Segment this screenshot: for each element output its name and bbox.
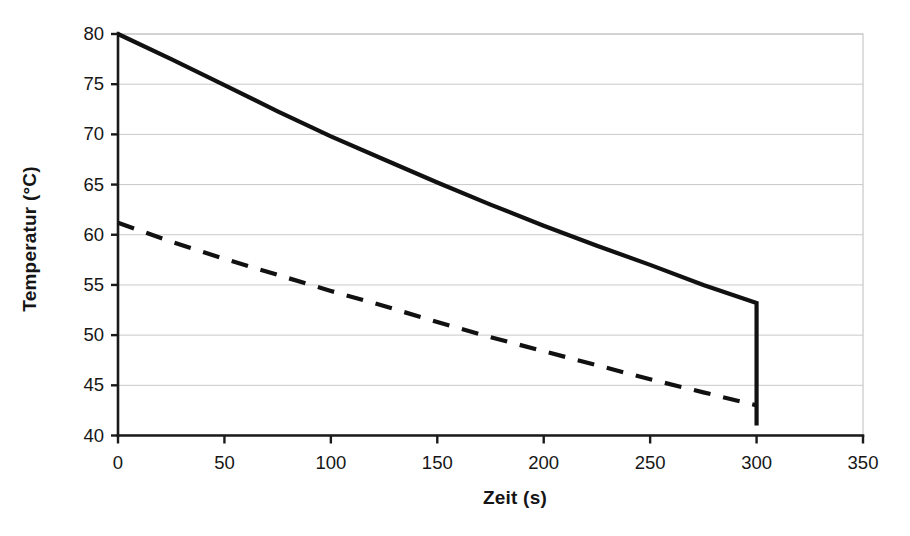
series-dashed-line	[118, 223, 757, 406]
x-tick-label: 150	[407, 452, 467, 474]
x-tick-label: 250	[620, 452, 680, 474]
temperature-time-chart: 807570656055504540 050100150200250300350…	[0, 0, 910, 536]
y-tick-label: 60	[58, 224, 104, 246]
tick-marks	[111, 34, 863, 444]
y-tick-label: 40	[58, 425, 104, 447]
y-tick-label: 80	[58, 23, 104, 45]
x-tick-label: 0	[88, 452, 148, 474]
series-solid-line	[118, 34, 757, 425]
y-tick-label: 75	[58, 73, 104, 95]
y-tick-label: 55	[58, 274, 104, 296]
y-axis-title: Temperatur (°C)	[19, 69, 41, 409]
x-tick-label: 350	[833, 452, 893, 474]
x-axis-title: Zeit (s)	[60, 487, 910, 509]
y-tick-label: 45	[58, 374, 104, 396]
y-tick-label: 70	[58, 123, 104, 145]
x-tick-label: 300	[727, 452, 787, 474]
y-tick-label: 50	[58, 324, 104, 346]
x-tick-label: 200	[514, 452, 574, 474]
x-tick-label: 100	[301, 452, 361, 474]
x-tick-label: 50	[194, 452, 254, 474]
y-tick-label: 65	[58, 174, 104, 196]
